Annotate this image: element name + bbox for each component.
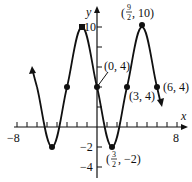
svg-text:(: ( [106, 152, 110, 166]
svg-text:, 10): , 10) [132, 6, 154, 20]
x-tick-label-min: −8 [7, 131, 20, 145]
annotation-leader [97, 72, 108, 87]
y-axis-arrow-icon [94, 6, 100, 13]
annotation-max: ( 9 2 , 10) [121, 3, 154, 22]
annotation-0-4: (0, 4) [104, 59, 130, 73]
curve-left-extension [33, 72, 37, 87]
svg-text:9: 9 [127, 3, 131, 12]
curve-right-arrow-icon [157, 98, 164, 107]
y-tick-label-10: 10 [84, 20, 96, 34]
x-axis-label: x [180, 109, 187, 123]
svg-text:2: 2 [127, 13, 131, 22]
x-axis-arrow-icon [181, 124, 188, 130]
curve-left-arrow-icon [29, 66, 36, 74]
x-tick-label-max: 8 [173, 131, 179, 145]
svg-text:(: ( [121, 6, 125, 20]
y-tick-label-neg4: −4 [80, 160, 93, 174]
svg-text:3: 3 [112, 150, 116, 159]
svg-text:2: 2 [112, 160, 116, 169]
point-neg3-4 [64, 84, 70, 90]
chart-canvas: y x −8 8 10 −2 −4 (0, 4) ( 9 2 , 10) (3,… [0, 0, 192, 182]
point-max-right [139, 22, 145, 28]
y-axis-label: y [85, 5, 92, 19]
y-tick-label-neg2: −2 [80, 140, 93, 154]
annotation-3-4: (3, 4) [129, 89, 155, 103]
point-min-left [49, 144, 55, 150]
annotation-6-4: (6, 4) [163, 80, 189, 94]
svg-text:, −2): , −2) [118, 152, 141, 166]
annotation-min: ( 3 2 , −2) [106, 150, 141, 169]
